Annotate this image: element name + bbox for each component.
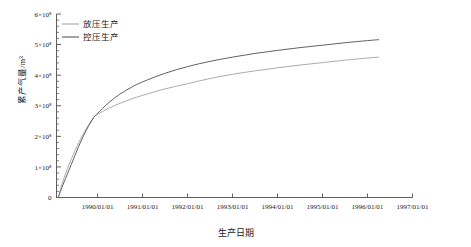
x-tick-label: 1992/01/01 [172, 203, 204, 211]
legend-label: 放压生产 [83, 19, 119, 29]
x-tick-label: 1996/01/01 [351, 203, 383, 211]
y-tick-label: 3×10⁸ [35, 102, 52, 110]
y-tick-label: 1×10⁸ [35, 164, 52, 172]
y-axis-ticks: 01×10⁸2×10⁸3×10⁸4×10⁸5×10⁸6×10⁸ [35, 11, 61, 203]
chart-series-layer [58, 40, 378, 198]
y-tick-label: 0 [48, 194, 52, 202]
series-line-放压生产 [58, 57, 378, 197]
chart-legend: 放压生产控压生产 [62, 19, 119, 42]
y-axis-title: 累产气量/m³ [15, 25, 27, 135]
x-tick-label: 1997/01/01 [397, 203, 429, 211]
series-line-控压生产 [58, 40, 378, 198]
x-tick-label: 1990/01/01 [82, 203, 114, 211]
y-tick-label: 6×10⁸ [35, 11, 52, 19]
x-tick-label: 1994/01/01 [262, 203, 294, 211]
chart-figure: 累产气量/m³ 生产日期 01×10⁸2×10⁸3×10⁸4×10⁸5×10⁸6… [0, 0, 471, 247]
x-tick-label: 1993/01/01 [217, 203, 249, 211]
y-tick-label: 5×10⁸ [35, 41, 52, 49]
legend-label: 控压生产 [83, 32, 119, 42]
x-axis-title: 生产日期 [0, 226, 471, 239]
y-tick-label: 4×10⁸ [35, 72, 52, 80]
x-tick-label: 1995/01/01 [307, 203, 339, 211]
y-tick-label: 2×10⁸ [35, 133, 52, 141]
x-axis-ticks: 1990/01/011991/01/011992/01/011993/01/01… [82, 194, 429, 211]
chart-plot-area: 01×10⁸2×10⁸3×10⁸4×10⁸5×10⁸6×10⁸ 1990/01/… [0, 0, 471, 247]
x-tick-label: 1991/01/01 [127, 203, 159, 211]
